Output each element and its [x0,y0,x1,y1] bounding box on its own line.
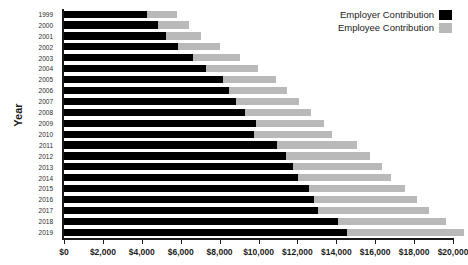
y-axis-tick-label: 2019 [1,229,53,236]
bar-row [64,183,453,194]
x-axis-tick-label: $0 [59,247,68,257]
bar-row [64,42,453,53]
x-axis-tick [414,238,415,244]
y-axis-tick-label: 2010 [1,131,53,138]
bar-segment-employee [178,43,220,50]
y-axis-tick-label: 2006 [1,87,53,94]
y-axis-tick-label: 2000 [1,22,53,29]
bar-row [64,85,453,96]
bar-segment-employee [314,196,417,203]
x-axis-tick-label: $6,000 [168,247,194,257]
y-axis-tick-label: 2014 [1,175,53,182]
legend-item[interactable]: Employee Contribution [338,22,452,33]
x-axis-tick [220,238,221,244]
legend-swatch [439,23,452,33]
bar-segment-employee [298,174,392,181]
bar-segment-employer [64,120,256,127]
y-axis-tick-label: 1999 [1,11,53,18]
x-axis-tick [64,238,65,244]
x-axis-line [62,238,453,240]
bar-segment-employer [64,163,293,170]
bar-segment-employee [158,21,189,28]
bar-row [64,194,453,205]
bar-segment-employee [309,185,405,192]
bar-segment-employee [229,87,287,94]
bar-segment-employee [256,120,324,127]
x-axis-tick [259,238,260,244]
bar-segment-employee [254,131,332,138]
bar-segment-employee [166,32,201,39]
plot-area: $0$2,000$4,000$6,000$8,000$10,000$12,000… [64,9,453,238]
bar-row [64,118,453,129]
x-axis-tick [336,238,337,244]
x-axis-tick-label: $16,000 [360,247,391,257]
x-axis-tick-label: $20,000 [438,247,468,257]
x-axis-tick-label: $18,000 [399,247,430,257]
bar-segment-employer [64,141,277,148]
bar-rows [64,9,453,238]
x-axis-tick [297,238,298,244]
x-axis-tick-label: $12,000 [282,247,313,257]
bar-segment-employer [64,109,245,116]
x-axis-tick-label: $8,000 [207,247,233,257]
bar-segment-employee [293,163,382,170]
bar-segment-employer [64,98,236,105]
bar-segment-employer [64,21,158,28]
bar-row [64,129,453,140]
bar-row [64,205,453,216]
legend-item[interactable]: Employer Contribution [340,9,452,20]
y-axis-tick-label: 2001 [1,33,53,40]
legend-swatch [439,10,452,20]
x-axis-tick-label: $2,000 [90,247,116,257]
bar-segment-employee [147,11,177,18]
y-axis-tick-label: 2005 [1,76,53,83]
x-axis-tick-label: $10,000 [243,247,274,257]
bar-segment-employer [64,229,347,236]
y-axis-tick-label: 2004 [1,65,53,72]
bar-segment-employee [206,65,258,72]
bar-segment-employer [64,76,223,83]
y-axis-tick-labels: 1999200020012002200320042005200620072008… [0,9,60,238]
bar-row [64,140,453,151]
bar-segment-employer [64,131,254,138]
bar-segment-employee [277,141,357,148]
y-axis-tick-label: 2009 [1,120,53,127]
legend-label: Employee Contribution [338,22,434,33]
bar-segment-employer [64,65,206,72]
y-axis-tick-label: 2015 [1,185,53,192]
x-axis-tick-label: $14,000 [321,247,352,257]
x-axis-tick [453,238,454,244]
bar-row [64,227,453,238]
y-axis-tick-label: 2012 [1,153,53,160]
bar-segment-employer [64,207,318,214]
x-axis-tick [181,238,182,244]
bar-segment-employee [223,76,276,83]
bar-segment-employee [318,207,429,214]
bar-segment-employer [64,174,298,181]
bar-row [64,96,453,107]
y-axis-tick-label: 2018 [1,218,53,225]
bar-segment-employer [64,87,229,94]
y-axis-tick-label: 2013 [1,164,53,171]
x-axis-tick [142,238,143,244]
chart-legend: Employer ContributionEmployee Contributi… [338,9,452,33]
y-axis-tick-label: 2002 [1,44,53,51]
y-axis-tick-label: 2016 [1,196,53,203]
bar-segment-employer [64,185,309,192]
bar-row [64,173,453,184]
bar-row [64,53,453,64]
bar-segment-employer [64,32,166,39]
x-axis-tick [375,238,376,244]
legend-label: Employer Contribution [340,9,434,20]
bar-row [64,151,453,162]
y-axis-tick-label: 2011 [1,142,53,149]
y-axis-tick-label: 2008 [1,109,53,116]
bar-row [64,64,453,75]
bar-segment-employee [347,229,464,236]
x-axis-tick-label: $4,000 [129,247,155,257]
bar-row [64,162,453,173]
bar-segment-employer [64,11,147,18]
bar-row [64,74,453,85]
bar-row [64,216,453,227]
bar-segment-employee [236,98,300,105]
